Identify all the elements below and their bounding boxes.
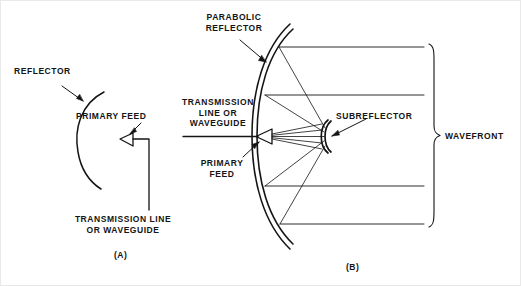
label-wavefront: WAVEFRONT xyxy=(445,131,504,142)
subreflector-leader-arrowhead xyxy=(332,131,340,137)
reflector-leader-arrowhead xyxy=(77,95,84,102)
label-transmission-line-a: TRANSMISSION LINE OR WAVEGUIDE xyxy=(57,214,189,235)
wavefront-rays xyxy=(265,47,424,224)
waveguide-line-a xyxy=(133,139,149,210)
feed-ray-bundle xyxy=(272,124,324,149)
label-reflector: REFLECTOR xyxy=(14,66,71,77)
spread-ray-bundle xyxy=(265,47,325,224)
label-primary-feed-a: PRIMARY FEED xyxy=(76,111,146,122)
wavefront-brace xyxy=(429,44,440,227)
panel-b-graphics xyxy=(183,24,440,249)
label-primary-feed-b: PRIMARY FEED xyxy=(190,158,254,179)
label-subreflector: SUBREFLECTOR xyxy=(336,111,412,122)
primary-feed-horn-a xyxy=(120,133,133,146)
label-parabolic-reflector: PARABOLIC REFLECTOR xyxy=(188,12,280,33)
subreflector-inner xyxy=(325,121,331,152)
antenna-reflector-diagram xyxy=(0,0,521,286)
caption-panel-b: (B) xyxy=(346,262,359,272)
label-transmission-line-b: TRANSMISSION LINE OR WAVEGUIDE xyxy=(176,97,260,129)
reflector-arc xyxy=(77,92,104,189)
page-border xyxy=(1,1,521,286)
caption-panel-a: (A) xyxy=(114,250,127,260)
panel-a-graphics xyxy=(62,86,149,210)
